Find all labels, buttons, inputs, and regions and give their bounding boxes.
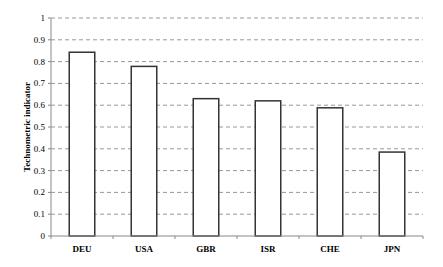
y-tick-label: 0.1 xyxy=(34,209,45,219)
x-tick-label: GBR xyxy=(196,244,216,254)
gridlines xyxy=(51,18,423,214)
x-tick-label: JPN xyxy=(384,244,401,254)
bar-chart: 00.10.20.30.40.50.60.70.80.91 DEUUSAGBRI… xyxy=(0,0,443,267)
x-axis-labels: DEUUSAGBRISRCHEJPN xyxy=(72,244,400,254)
bar-isr xyxy=(255,101,281,236)
y-tick-label: 0.4 xyxy=(34,144,46,154)
y-tick-label: 0.3 xyxy=(34,166,46,176)
y-tick-label: 0 xyxy=(41,231,46,241)
y-tick-label: 0.8 xyxy=(34,57,46,67)
y-tick-label: 0.9 xyxy=(34,35,46,45)
x-tick-label: ISR xyxy=(260,244,276,254)
x-tick-label: DEU xyxy=(72,244,92,254)
bars xyxy=(69,52,405,236)
y-tick-label: 0.7 xyxy=(34,78,46,88)
y-axis-ticks: 00.10.20.30.40.50.60.70.80.91 xyxy=(34,13,51,241)
y-tick-label: 0.5 xyxy=(34,122,46,132)
y-axis-label: Technometric indicator xyxy=(22,82,32,172)
bar-deu xyxy=(69,52,95,236)
y-tick-label: 1 xyxy=(41,13,46,23)
bar-usa xyxy=(131,66,157,236)
bar-che xyxy=(317,108,343,236)
y-tick-label: 0.6 xyxy=(34,100,46,110)
x-tick-label: CHE xyxy=(320,244,340,254)
x-tick-label: USA xyxy=(135,244,154,254)
y-tick-label: 0.2 xyxy=(34,187,45,197)
bar-gbr xyxy=(193,99,219,236)
bar-jpn xyxy=(379,152,405,236)
